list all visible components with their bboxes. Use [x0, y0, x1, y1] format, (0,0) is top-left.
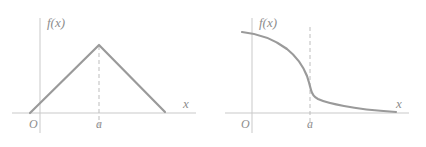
- tick-label-a-left: a: [96, 117, 102, 131]
- left-plot-svg: f(x) x O a: [0, 0, 213, 147]
- x-axis-label-right: x: [395, 96, 402, 111]
- tick-label-a-right: a: [307, 117, 313, 131]
- origin-label-right: O: [241, 117, 250, 131]
- chart-panel-right: f(x) x O a: [213, 0, 426, 147]
- chart-panel-left: f(x) x O a: [0, 0, 213, 147]
- x-axis-label-left: x: [182, 96, 189, 111]
- right-plot-svg: f(x) x O a: [213, 0, 426, 147]
- y-axis-label-right: f(x): [259, 15, 277, 30]
- sigmoid-curve: [242, 32, 396, 112]
- origin-label-left: O: [29, 117, 38, 131]
- y-axis-label-left: f(x): [47, 15, 65, 30]
- triangular-curve: [30, 45, 165, 113]
- figure-container: f(x) x O a f(x) x O a: [0, 0, 426, 147]
